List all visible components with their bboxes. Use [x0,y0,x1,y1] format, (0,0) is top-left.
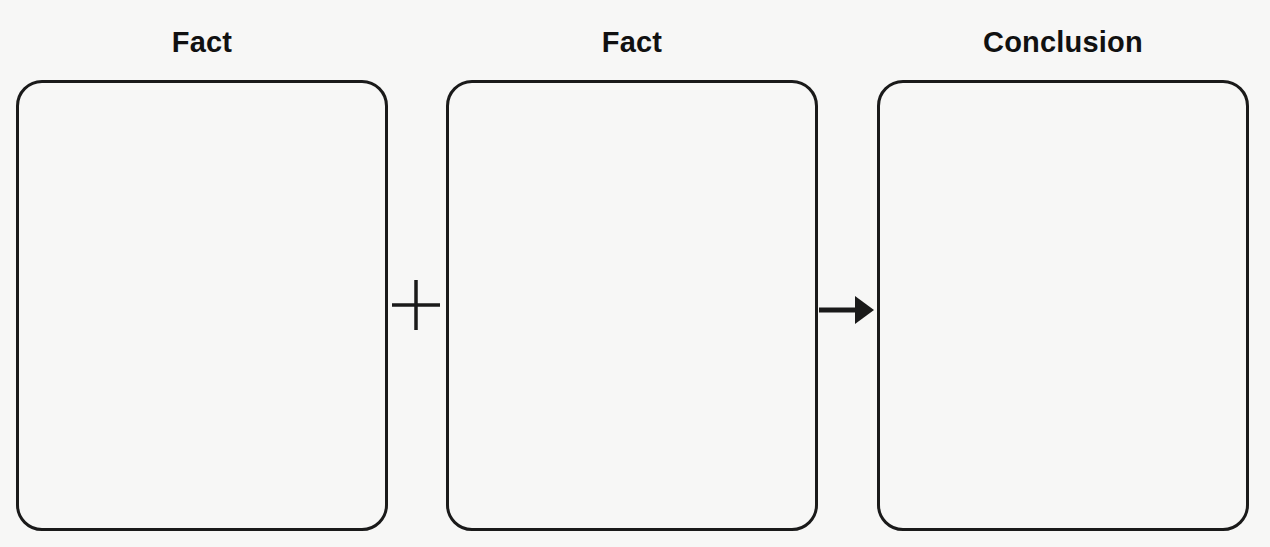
fact-1-box[interactable] [16,80,388,531]
fact-2-box[interactable] [446,80,818,531]
fact-2-title: Fact [446,22,818,62]
conclusion-title: Conclusion [877,22,1249,62]
conclusion-box[interactable] [877,80,1249,531]
arrow-right-icon [817,294,875,326]
plus-icon [390,278,442,332]
fact-1-title: Fact [16,22,388,62]
